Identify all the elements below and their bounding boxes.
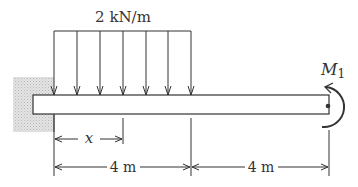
beam [33,95,329,114]
x-dimension-label: x [85,129,94,147]
dimension-1-label: 4 m [110,159,137,175]
moment-label: M1 [320,60,345,81]
dimension-2-label: 4 m [248,159,275,175]
cantilever-beam-diagram: 2 kN/m M1 x 4 m 4 m [0,0,358,187]
distributed-load [51,31,194,95]
load-label: 2 kN/m [95,8,151,26]
